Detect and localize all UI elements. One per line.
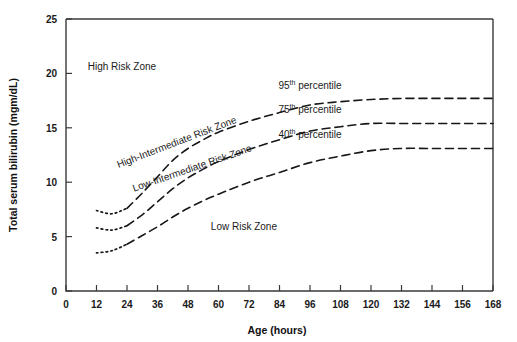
percentile-curve-40 xyxy=(127,148,493,244)
x-tick-label: 12 xyxy=(91,299,103,310)
x-tick-label: 24 xyxy=(121,299,133,310)
x-tick-label: 120 xyxy=(363,299,380,310)
percentile-curve-dotted-95 xyxy=(97,208,128,213)
x-axis-title: Age (hours) xyxy=(248,324,307,336)
x-tick-label: 168 xyxy=(485,299,502,310)
percentile-curve-95 xyxy=(127,98,493,208)
series-label-number: 75 xyxy=(278,104,290,115)
x-tick-label: 48 xyxy=(182,299,194,310)
x-tick-label: 156 xyxy=(454,299,471,310)
y-tick-label: 25 xyxy=(46,14,58,25)
x-tick-label: 72 xyxy=(243,299,255,310)
series-label-75: 75th percentile xyxy=(278,103,342,115)
y-tick-label: 5 xyxy=(51,232,57,243)
y-axis-title: Total serum bilirubin (mgm/dL) xyxy=(7,78,19,232)
x-tick-label: 0 xyxy=(63,299,69,310)
x-tick-label: 84 xyxy=(274,299,286,310)
zone-annotations-group: High Risk ZoneHigh-Intermediate Risk Zon… xyxy=(88,61,278,232)
series-label-suffix: percentile xyxy=(295,80,342,91)
y-tick-label: 0 xyxy=(51,286,57,297)
percentile-curve-dotted-75 xyxy=(97,226,128,230)
series-labels-group: 95th percentile75th percentile40th perce… xyxy=(278,79,342,139)
series-label-suffix: percentile xyxy=(295,104,342,115)
tick-labels-group: 0122436486072849610812013214415616805101… xyxy=(46,14,502,310)
y-tick-label: 15 xyxy=(46,123,58,134)
zone-label-high-risk-zone: High Risk Zone xyxy=(88,61,157,72)
x-tick-label: 144 xyxy=(424,299,441,310)
y-tick-label: 20 xyxy=(46,68,58,79)
chart-svg: 0122436486072849610812013214415616805101… xyxy=(0,0,517,342)
x-tick-label: 132 xyxy=(393,299,410,310)
series-label-number: 95 xyxy=(278,80,290,91)
y-tick-label: 10 xyxy=(46,177,58,188)
series-label-number: 40 xyxy=(278,129,290,140)
series-label-suffix: percentile xyxy=(295,129,342,140)
series-label-95: 95th percentile xyxy=(278,79,342,91)
x-tick-label: 60 xyxy=(213,299,225,310)
zone-label-low-risk-zone: Low Risk Zone xyxy=(211,221,278,232)
x-tick-label: 96 xyxy=(304,299,316,310)
x-tick-label: 108 xyxy=(332,299,349,310)
series-label-40: 40th percentile xyxy=(278,128,342,140)
x-tick-label: 36 xyxy=(152,299,164,310)
percentile-curve-dotted-40 xyxy=(97,244,128,253)
bhutani-nomogram-chart: 0122436486072849610812013214415616805101… xyxy=(0,0,517,342)
